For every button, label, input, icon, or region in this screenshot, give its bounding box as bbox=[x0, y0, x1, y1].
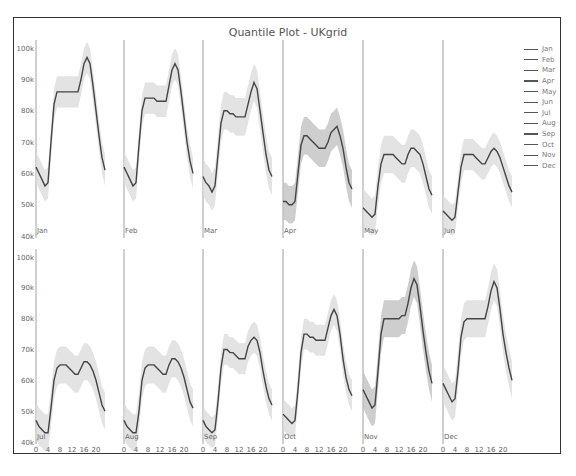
x-tick-label: 12 bbox=[395, 446, 404, 454]
x-tick-label: 4 bbox=[373, 446, 378, 454]
y-axis-row-2: 40k50k60k70k80k90k100k bbox=[17, 254, 35, 447]
x-tick-label: 0 bbox=[201, 446, 205, 454]
panel-month-label: May bbox=[364, 227, 378, 235]
legend-label: Jan bbox=[542, 45, 553, 53]
quantile-band bbox=[283, 108, 352, 224]
y-tick-label: 60k bbox=[21, 170, 35, 178]
legend-line-icon bbox=[524, 59, 538, 60]
legend: JanFebMarAprMayJunJulAugSepOctNovDec bbox=[524, 44, 564, 171]
panel-nov: Nov048121620 bbox=[361, 249, 432, 454]
x-tick-label: 8 bbox=[385, 446, 389, 454]
x-tick-label: 16 bbox=[247, 446, 256, 454]
quantile-band bbox=[124, 48, 193, 202]
panel-month-label: Jan bbox=[36, 227, 48, 235]
panel-apr: Apr bbox=[283, 40, 352, 238]
legend-item-jan[interactable]: Jan bbox=[524, 44, 564, 55]
x-tick-label: 0 bbox=[281, 446, 285, 454]
x-tick-label: 4 bbox=[213, 446, 218, 454]
legend-line-icon bbox=[524, 155, 538, 156]
y-tick-label: 80k bbox=[21, 315, 35, 323]
panel-month-label: Mar bbox=[204, 227, 217, 235]
x-tick-label: 8 bbox=[465, 446, 469, 454]
legend-item-mar[interactable]: Mar bbox=[524, 65, 564, 76]
x-tick-label: 12 bbox=[68, 446, 77, 454]
y-tick-label: 80k bbox=[21, 107, 35, 115]
x-tick-label: 20 bbox=[92, 446, 101, 454]
x-tick-label: 0 bbox=[361, 446, 365, 454]
panel-month-label: Jul bbox=[36, 433, 46, 441]
y-tick-label: 100k bbox=[17, 254, 35, 262]
legend-label: Nov bbox=[542, 151, 556, 159]
x-tick-label: 0 bbox=[441, 446, 445, 454]
legend-item-dec[interactable]: Dec bbox=[524, 161, 564, 172]
panel-jul: Jul048121620 bbox=[34, 249, 105, 454]
legend-item-sep[interactable]: Sep bbox=[524, 129, 564, 140]
legend-line-icon bbox=[524, 144, 538, 145]
median-line bbox=[124, 64, 193, 186]
y-tick-label: 50k bbox=[21, 408, 35, 416]
legend-item-aug[interactable]: Aug bbox=[524, 118, 564, 129]
legend-label: Aug bbox=[542, 119, 556, 127]
panel-oct: Oct048121620 bbox=[281, 249, 352, 454]
panel-jan: Jan bbox=[36, 40, 105, 238]
panel-month-label: Jun bbox=[443, 227, 455, 235]
legend-item-nov[interactable]: Nov bbox=[524, 150, 564, 161]
legend-item-jun[interactable]: Jun bbox=[524, 97, 564, 108]
x-tick-label: 4 bbox=[134, 446, 139, 454]
quantile-band bbox=[443, 133, 512, 236]
x-tick-label: 0 bbox=[122, 446, 126, 454]
quantile-band bbox=[36, 42, 105, 202]
legend-line-icon bbox=[524, 102, 538, 103]
panel-sep: Sep048121620 bbox=[201, 249, 272, 454]
panel-dec: Dec048121620 bbox=[441, 249, 512, 454]
legend-line-icon bbox=[524, 133, 538, 134]
x-tick-label: 12 bbox=[315, 446, 324, 454]
x-tick-label: 12 bbox=[475, 446, 484, 454]
legend-item-apr[interactable]: Apr bbox=[524, 76, 564, 87]
panel-month-label: Nov bbox=[364, 433, 378, 441]
x-tick-label: 20 bbox=[419, 446, 428, 454]
x-tick-label: 16 bbox=[487, 446, 496, 454]
panel-aug: Aug048121620 bbox=[122, 249, 193, 454]
quantile-band bbox=[363, 130, 432, 237]
quantile-band bbox=[283, 294, 352, 439]
legend-line-icon bbox=[524, 70, 538, 71]
y-tick-label: 60k bbox=[21, 377, 35, 385]
legend-line-icon bbox=[524, 80, 538, 81]
x-tick-label: 4 bbox=[453, 446, 458, 454]
x-tick-label: 8 bbox=[225, 446, 229, 454]
legend-label: Apr bbox=[542, 77, 554, 85]
panel-month-label: Oct bbox=[284, 433, 296, 441]
legend-label: Feb bbox=[542, 56, 554, 64]
legend-line-icon bbox=[524, 91, 538, 92]
x-tick-label: 8 bbox=[58, 446, 62, 454]
x-tick-label: 20 bbox=[259, 446, 268, 454]
legend-item-may[interactable]: May bbox=[524, 86, 564, 97]
panel-month-label: Sep bbox=[204, 433, 218, 441]
legend-label: Jun bbox=[542, 98, 553, 106]
x-tick-label: 16 bbox=[80, 446, 89, 454]
legend-label: Mar bbox=[542, 66, 555, 74]
legend-line-icon bbox=[524, 123, 538, 124]
quantile-band bbox=[363, 260, 432, 427]
legend-line-icon bbox=[524, 49, 538, 50]
legend-label: May bbox=[542, 88, 556, 96]
panel-mar: Mar bbox=[203, 40, 272, 238]
x-tick-label: 4 bbox=[46, 446, 51, 454]
x-tick-label: 8 bbox=[146, 446, 150, 454]
y-tick-label: 90k bbox=[21, 76, 35, 84]
x-tick-label: 20 bbox=[499, 446, 508, 454]
quantile-band bbox=[203, 322, 272, 448]
legend-item-feb[interactable]: Feb bbox=[524, 55, 564, 66]
x-tick-label: 16 bbox=[407, 446, 416, 454]
legend-label: Oct bbox=[542, 141, 554, 149]
x-tick-label: 16 bbox=[327, 446, 336, 454]
y-tick-label: 70k bbox=[21, 346, 35, 354]
panel-month-label: Apr bbox=[284, 227, 296, 235]
legend-item-oct[interactable]: Oct bbox=[524, 139, 564, 150]
y-axis-row-1: 40k50k60k70k80k90k100k bbox=[17, 45, 35, 241]
legend-label: Dec bbox=[542, 162, 556, 170]
y-tick-label: 100k bbox=[17, 45, 35, 53]
legend-item-jul[interactable]: Jul bbox=[524, 108, 564, 119]
quantile-band bbox=[443, 263, 512, 420]
